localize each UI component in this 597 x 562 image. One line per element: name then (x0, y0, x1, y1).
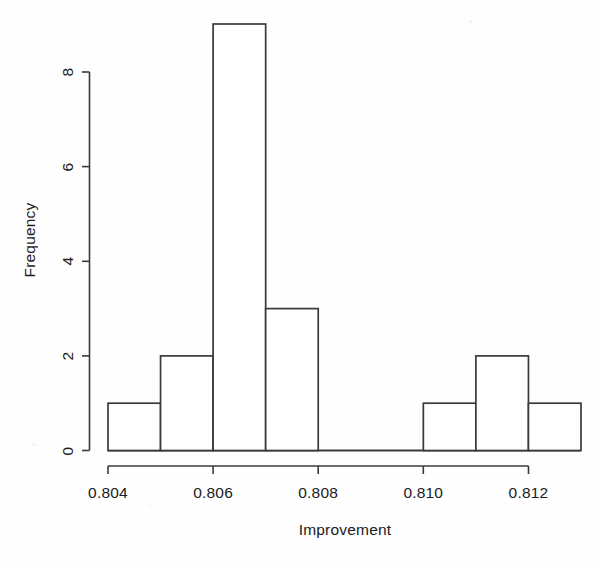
y-tick-label-6: 6 (59, 162, 77, 171)
histogram-bar (161, 356, 214, 451)
y-tick-label-0: 0 (59, 446, 77, 455)
histogram-bar (528, 403, 581, 450)
x-tick-label-0808: 0.808 (298, 484, 338, 502)
x-tick-label-0810: 0.810 (403, 484, 443, 502)
histogram-bar (423, 403, 476, 450)
histogram-svg (0, 0, 597, 562)
plot-area (0, 0, 597, 562)
y-axis-title: Frequency (21, 202, 39, 277)
x-tick-label-0812: 0.812 (509, 484, 549, 502)
histogram-bar (476, 356, 529, 451)
histogram-bar (266, 309, 319, 451)
histogram-figure: 8 6 4 2 0 Frequency 0.804 0.806 0.808 0.… (0, 0, 597, 562)
x-axis-title: Improvement (299, 521, 392, 539)
y-tick-label-2: 2 (59, 351, 77, 360)
histogram-bar (213, 24, 266, 451)
y-tick-label-4: 4 (59, 257, 77, 266)
y-tick-label-8: 8 (59, 68, 77, 77)
x-tick-label-0806: 0.806 (193, 484, 233, 502)
x-tick-label-0804: 0.804 (88, 484, 128, 502)
histogram-bar (108, 403, 161, 450)
